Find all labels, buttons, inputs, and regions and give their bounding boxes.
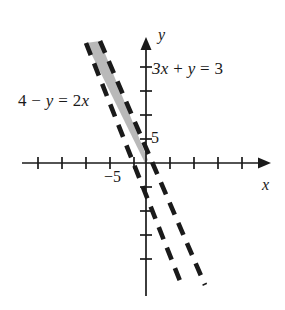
x-axis-tick-label-negative-5: −5: [104, 168, 121, 186]
solution-region-shading: [86, 41, 148, 163]
y-axis-tick-label-5: 5: [151, 129, 159, 147]
graph-figure: 3x + y = 3 4 − y = 2x y x 5 −5: [0, 0, 285, 310]
y-axis: [140, 37, 152, 296]
x-axis-label: x: [262, 176, 269, 194]
equation-label-3x-plus-y: 3x + y = 3: [152, 59, 223, 79]
equation-label-4-minus-y: 4 − y = 2x: [18, 91, 89, 111]
coordinate-plane: [0, 0, 285, 310]
y-axis-label: y: [158, 26, 165, 44]
